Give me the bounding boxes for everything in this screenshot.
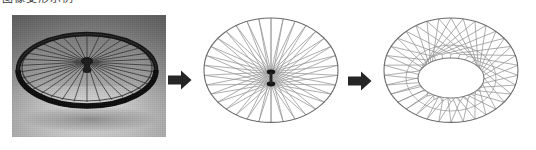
spoked-wheel-wireframe: [192, 8, 350, 150]
photo-grain-texture: [12, 15, 166, 137]
annulus-wheel-wireframe: [372, 8, 530, 150]
transform-arrow-wireframe-to-annulus: [348, 71, 372, 91]
annulus-wheel-drawing: [372, 8, 530, 150]
spoked-wheel-drawing: [192, 8, 350, 150]
bicycle-wheel-photograph: [12, 15, 166, 137]
transform-arrow-photo-to-wireframe: [168, 70, 192, 90]
figure-container: 图像变形示例: [0, 0, 536, 150]
caption-text-sliver: 图像变形示例: [2, 0, 122, 5]
